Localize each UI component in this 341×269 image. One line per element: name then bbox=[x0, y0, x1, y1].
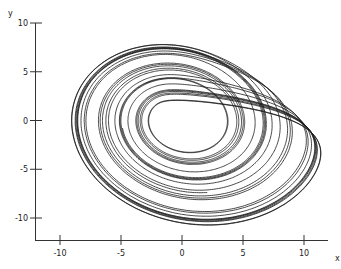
y-tick-label: 10 bbox=[18, 19, 28, 28]
y-tick-label: 5 bbox=[23, 68, 28, 77]
x-tick-label: 0 bbox=[179, 249, 184, 258]
x-axis-label: x bbox=[335, 254, 340, 263]
y-axis: 1050-5-10 y bbox=[8, 9, 42, 240]
x-tick-label: -10 bbox=[53, 249, 66, 258]
y-axis-label: y bbox=[8, 9, 13, 18]
chart: 1050-5-10 y -10-50510 x bbox=[0, 0, 341, 269]
x-axis: -10-50510 x bbox=[35, 235, 340, 263]
y-tick-label: -5 bbox=[20, 165, 28, 174]
attractor-trajectory bbox=[72, 45, 321, 226]
y-tick-label: -10 bbox=[15, 214, 28, 223]
y-tick-label: 0 bbox=[23, 117, 28, 126]
plot-area bbox=[72, 45, 321, 226]
x-tick-label: 10 bbox=[299, 249, 309, 258]
x-tick-label: -5 bbox=[117, 249, 125, 258]
x-tick-label: 5 bbox=[240, 249, 245, 258]
